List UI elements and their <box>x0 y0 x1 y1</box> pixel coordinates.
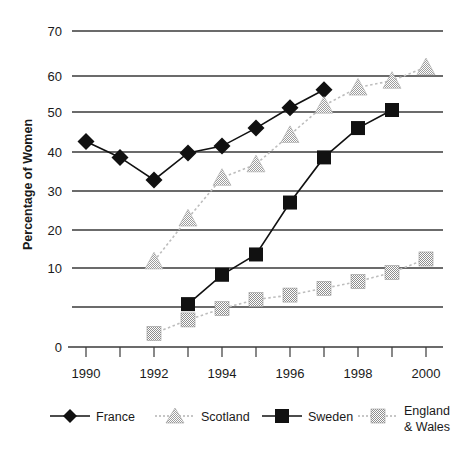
y-tick-70: 70 <box>48 24 62 39</box>
data-point-marker <box>247 155 265 172</box>
x-tick-2000: 2000 <box>412 366 441 381</box>
data-point-marker <box>349 78 367 95</box>
series-scotland <box>145 58 435 269</box>
data-point-marker <box>215 268 229 282</box>
y-tick-40: 40 <box>48 145 62 160</box>
legend-item-scotland[interactable]: Scotland <box>155 408 250 424</box>
x-axis <box>68 347 443 357</box>
data-point-marker <box>181 313 195 327</box>
legend-label-scotland: Scotland <box>201 410 250 424</box>
data-point-marker <box>213 169 231 186</box>
diamond-icon <box>63 409 77 423</box>
x-tick-1996: 1996 <box>276 366 305 381</box>
data-point-marker <box>146 171 163 188</box>
data-point-marker <box>317 281 331 295</box>
data-point-marker <box>315 96 333 113</box>
data-point-marker <box>351 121 365 135</box>
y-tick-60: 60 <box>48 69 62 84</box>
data-point-marker <box>248 120 265 137</box>
y-tick-0: 0 <box>55 340 62 355</box>
legend-label-england: England <box>404 404 450 418</box>
data-point-marker <box>417 58 435 75</box>
y-tick-50: 50 <box>48 105 62 120</box>
data-point-marker <box>282 99 299 116</box>
x-tick-1998: 1998 <box>344 366 373 381</box>
legend: France Scotland Sweden England & Wales <box>50 404 450 434</box>
data-point-marker <box>419 252 433 266</box>
data-point-marker <box>316 81 333 98</box>
series-layer <box>78 58 436 340</box>
data-point-marker <box>317 150 331 164</box>
data-point-marker <box>281 126 299 143</box>
data-point-marker <box>179 209 197 226</box>
data-point-marker <box>145 252 163 269</box>
data-point-marker <box>385 266 399 280</box>
legend-label-france: France <box>96 410 135 424</box>
data-point-marker <box>383 72 401 89</box>
data-point-marker <box>215 302 229 316</box>
data-point-marker <box>181 297 195 311</box>
series-england-wales <box>147 252 433 340</box>
legend-item-sweden[interactable]: Sweden <box>262 409 353 424</box>
y-tick-10: 10 <box>48 261 62 276</box>
square-icon <box>275 409 289 423</box>
y-tick-30: 30 <box>48 184 62 199</box>
data-point-marker <box>283 288 297 302</box>
data-point-marker <box>180 144 197 161</box>
y-axis-title: Percentage of Women <box>21 119 35 250</box>
series-line <box>154 67 426 261</box>
square-icon <box>371 409 385 423</box>
data-point-marker <box>351 275 365 289</box>
legend-label-wales: & Wales <box>404 420 450 434</box>
legend-item-france[interactable]: France <box>50 409 135 424</box>
x-tick-1990: 1990 <box>72 366 101 381</box>
line-chart: 70 60 50 40 30 20 10 0 1990 1992 1994 19… <box>0 0 475 453</box>
data-point-marker <box>283 196 297 210</box>
y-tick-labels: 70 60 50 40 30 20 10 0 <box>48 24 62 355</box>
data-point-marker <box>147 326 161 340</box>
x-tick-labels: 1990 1992 1994 1996 1998 2000 <box>72 366 441 381</box>
data-point-marker <box>78 133 95 150</box>
data-point-marker <box>249 293 263 307</box>
chart-canvas: 70 60 50 40 30 20 10 0 1990 1992 1994 19… <box>0 0 475 453</box>
legend-label-sweden: Sweden <box>308 410 353 424</box>
x-tick-1992: 1992 <box>140 366 169 381</box>
data-point-marker <box>385 103 399 117</box>
legend-item-england-wales[interactable]: England & Wales <box>358 404 450 434</box>
data-point-marker <box>249 247 263 261</box>
y-tick-20: 20 <box>48 223 62 238</box>
x-tick-1994: 1994 <box>208 366 237 381</box>
